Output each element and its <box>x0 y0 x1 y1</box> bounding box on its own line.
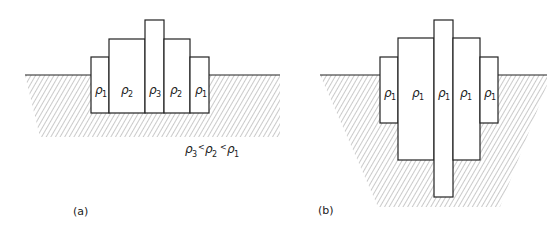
block-subscript: 2 <box>128 90 133 99</box>
block-a-1: ρ 1 <box>91 57 109 113</box>
svg-text:<: < <box>198 143 205 152</box>
density-relation: ρ 3 < ρ 2 < ρ 1 <box>185 142 239 159</box>
block-subscript: 1 <box>391 93 396 102</box>
svg-text:1: 1 <box>234 150 239 159</box>
panel-b: ρ 1 ρ 1 ρ 1 ρ 1 ρ 1 (b) <box>318 20 547 217</box>
block-b-2: ρ 1 <box>398 38 434 160</box>
block-subscript: 1 <box>202 90 207 99</box>
svg-text:2: 2 <box>212 150 217 159</box>
block-subscript: 1 <box>419 93 424 102</box>
svg-text:<: < <box>220 143 227 152</box>
block-b-4: ρ 1 <box>453 38 480 160</box>
block-b-3: ρ 1 <box>434 20 453 197</box>
caption-b: (b) <box>318 204 334 217</box>
block-b-1: ρ 1 <box>380 57 398 123</box>
block-subscript: 1 <box>467 93 472 102</box>
block-a-2: ρ 2 <box>109 39 145 113</box>
block-a-4: ρ 2 <box>164 39 190 113</box>
block-b-5: ρ 1 <box>480 57 498 123</box>
block-subscript: 3 <box>156 90 161 99</box>
svg-text:3: 3 <box>192 150 197 159</box>
panel-a: ρ 1 ρ 2 ρ 3 ρ 2 ρ 1 ρ 3 < ρ 2 < <box>25 20 280 218</box>
block-subscript: 1 <box>102 90 107 99</box>
caption-a: (a) <box>73 205 88 218</box>
block-subscript: 2 <box>177 90 182 99</box>
block-a-3: ρ 3 <box>145 20 164 113</box>
isostasy-diagram: ρ 1 ρ 2 ρ 3 ρ 2 ρ 1 ρ 3 < ρ 2 < <box>0 0 547 231</box>
block-subscript: 1 <box>445 93 450 102</box>
block-a-5: ρ 1 <box>190 57 209 113</box>
block-subscript: 1 <box>491 93 496 102</box>
